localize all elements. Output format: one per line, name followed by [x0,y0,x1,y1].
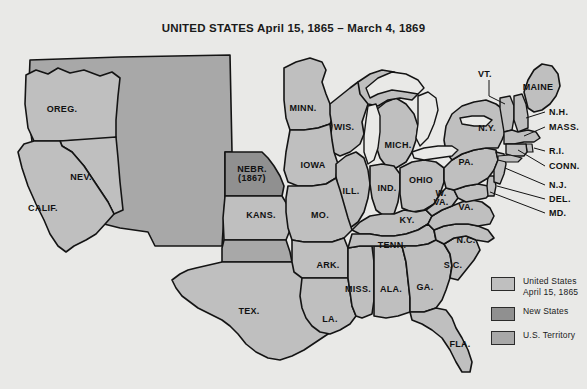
state-maine [524,64,560,112]
legend-item-us-territory: U.S. Territory [491,330,587,345]
legend-item-new-states: New States [491,306,587,321]
legend-label-us-territory: U.S. Territory [523,330,575,341]
historical-map-figure: UNITED STATES April 15, 1865 – March 4, … [0,0,587,389]
state-connecticut [506,144,527,156]
leader-rhode-island [534,148,545,151]
legend-label-united-states: United States April 15, 1865 [523,276,578,297]
state-indiana [370,164,400,216]
state-kansas [223,196,292,240]
leader-new-hampshire [526,112,545,118]
state-georgia [402,240,452,312]
state-mississippi [348,246,374,318]
legend-label-new-states: New States [523,306,568,317]
legend-swatch-us-territory [491,331,515,345]
state-massachusetts [504,130,540,144]
state-arkansas [292,238,348,278]
territory-indian [222,240,292,262]
state-oregon [25,68,120,141]
state-iowa [284,124,338,186]
state-michigan-lower [374,98,418,168]
lake-ontario [460,116,492,126]
state-florida [410,308,472,372]
legend-swatch-new-states [491,307,515,321]
legend-item-united-states: United States April 15, 1865 [491,276,587,297]
state-nebraska [225,152,284,196]
lake-huron [416,92,438,146]
legend-swatch-united-states [491,277,515,291]
state-minnesota [284,58,334,130]
leader-new-jersey [505,168,545,185]
map-legend: United States April 15, 1865 New States … [491,276,587,354]
leader-maryland [490,192,545,213]
lake-michigan [364,104,380,164]
